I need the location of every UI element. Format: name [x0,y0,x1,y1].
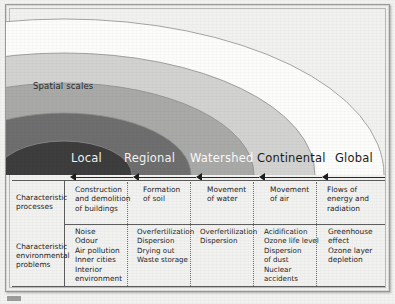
row-header-line: environmental [16,251,70,260]
table-row-problems: Characteristic environmental problems No… [12,224,385,287]
cell-problems-watershed: Overfertilization Dispersion [196,224,259,287]
figure-panel: Spatial scales Local Regional Watershed … [5,4,390,292]
cell-line: Dispersion [137,236,193,245]
cell-line: Dispersion [264,246,319,255]
cell-line: Movement [270,185,319,194]
cell-line: and demolition [75,194,130,203]
row-header-line: processes [16,202,53,211]
cell-problems-continental: Acidification Ozone life level Dispersio… [259,224,322,287]
cell-line: Acidification [264,227,319,236]
cell-line: of dust [264,255,319,264]
cell-line: of soil [143,194,193,203]
cell-line: Flows of [327,185,382,194]
scale-label-watershed: Watershed [190,151,253,165]
cell-line: Noise [75,227,130,236]
cell-line: Nuclear [264,265,319,274]
attributes-table: Characteristic processes Construction an… [12,180,385,287]
cell-line: of air [270,194,319,203]
arrow-line [327,177,385,178]
spatial-scales-label: Spatial scales [33,81,93,91]
row-header-processes: Characteristic processes [12,180,70,224]
cell-line: radiation [327,204,382,213]
cell-line: Construction [75,185,130,194]
cell-line: Interior [75,265,130,274]
cell-line: Odour [75,236,130,245]
cell-line: Dispersion [200,236,256,245]
cell-line: energy and [327,194,382,203]
cell-line: Ozone layer [328,246,382,255]
cell-line: Movement [207,185,256,194]
row-header-problems: Characteristic environmental problems [12,224,70,287]
cell-line: Drying out [137,246,193,255]
arrow-line [264,177,322,178]
cell-problems-local: Noise Odour Air pollution Inner cities I… [70,224,133,287]
row-header-line: Characteristic [16,193,67,202]
cell-line: Ozone life level [264,236,319,245]
arrow-line [75,177,133,178]
cell-problems-global: Greenhouse effect Ozone layer depletion [322,224,385,287]
arrow-line [201,177,259,178]
cell-problems-regional: Overfertilization Dispersion Drying out … [133,224,196,287]
nested-arcs-diagram: Spatial scales Local Regional Watershed … [6,5,390,180]
cell-line: Air pollution [75,246,130,255]
cell-line: Formation [143,185,193,194]
row-header-line: problems [16,260,50,269]
cell-line: of water [207,194,256,203]
cell-line: environment [75,274,130,283]
row-header-line: Characteristic [16,242,67,251]
cell-line: Greenhouse [328,227,382,236]
cell-line: Waste storage [137,255,193,264]
cell-processes-global: Flows of energy and radiation [322,180,385,224]
cell-processes-local: Construction and demolition of buildings [70,180,133,224]
cell-line: effect [328,236,382,245]
scanned-page: Spatial scales Local Regional Watershed … [0,0,395,304]
arrow-line [138,177,196,178]
table-row-processes: Characteristic processes Construction an… [12,180,385,224]
cell-line: Overfertilization [200,227,256,236]
cell-processes-continental: Movement of air [259,180,322,224]
scale-label-local: Local [71,151,102,165]
cell-line: Overfertilization [137,227,193,236]
cell-line: of buildings [75,204,130,213]
scale-label-regional: Regional [124,151,175,165]
cell-processes-watershed: Movement of water [196,180,259,224]
cell-processes-regional: Formation of soil [133,180,196,224]
cell-line: depletion [328,255,382,264]
cell-line: Inner cities [75,255,130,264]
caption-fragment [7,296,21,301]
cell-line: accidents [264,274,319,283]
scale-label-global: Global [335,151,373,165]
scale-label-continental: Continental [257,151,326,165]
